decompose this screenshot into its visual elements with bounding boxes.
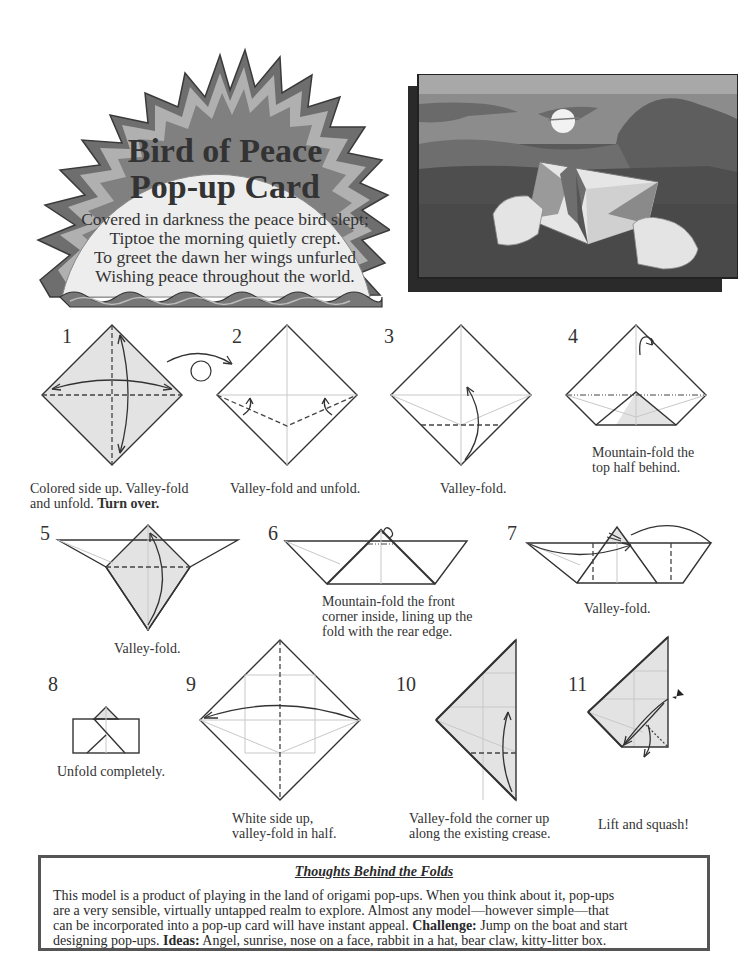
thoughts-behind-the-folds-box: Thoughts Behind the Folds This model is …	[38, 855, 710, 951]
push-arrowhead-icon	[672, 689, 684, 699]
step-11-diagram	[588, 637, 698, 787]
title-line-1: Bird of Peace	[95, 133, 355, 169]
step-7-number: 7	[507, 522, 517, 545]
step-5-number: 5	[40, 522, 50, 545]
step-4-diagram	[566, 325, 716, 435]
step-4-caption: Mountain-fold thetop half behind.	[592, 445, 694, 475]
step-5-diagram	[58, 525, 243, 635]
step-6-number: 6	[268, 522, 278, 545]
step-7-caption: Valley-fold.	[584, 601, 650, 616]
step-9-number: 9	[186, 673, 196, 696]
notes-title: Thoughts Behind the Folds	[41, 864, 707, 880]
step-8-number: 8	[48, 673, 58, 696]
step-1-diagram	[40, 325, 190, 475]
step-9-caption: White side up,valley-fold in half.	[232, 811, 337, 841]
poem-line-3: To greet the dawn her wings unfurled	[60, 248, 390, 267]
step-8-diagram	[72, 705, 142, 755]
step-11-caption: Lift and squash!	[598, 817, 689, 832]
step-6-caption: Mountain-fold the frontcorner inside, li…	[322, 594, 472, 639]
step-8-caption: Unfold completely.	[57, 764, 165, 779]
step-2-diagram	[215, 325, 365, 475]
step-3-diagram	[391, 325, 541, 475]
step-11-number: 11	[568, 673, 587, 696]
step-1-caption: Colored side up. Valley-fold and unfold.…	[30, 481, 188, 511]
step-5-caption: Valley-fold.	[114, 641, 180, 656]
step-6-diagram	[285, 524, 470, 589]
step-9-diagram	[200, 640, 365, 805]
step-2-caption: Valley-fold and unfold.	[230, 481, 360, 496]
step-3-caption: Valley-fold.	[440, 481, 506, 496]
step-10-number: 10	[396, 673, 416, 696]
step-10-caption: Valley-fold the corner upalong the exist…	[409, 811, 551, 841]
step-7-diagram	[525, 525, 715, 585]
pop-up-card-photo	[408, 74, 738, 292]
title-line-2: Pop-up Card	[95, 169, 355, 205]
step-10-diagram	[436, 640, 526, 805]
moon-icon	[551, 109, 575, 133]
notes-body: This model is a product of playing in th…	[53, 888, 703, 948]
poem-line-1: Covered in darkness the peace bird slept…	[60, 210, 390, 229]
poem-line-4: Wishing peace throughout the world.	[60, 267, 390, 286]
poem-line-2: Tiptoe the morning quietly crept.	[60, 229, 390, 248]
